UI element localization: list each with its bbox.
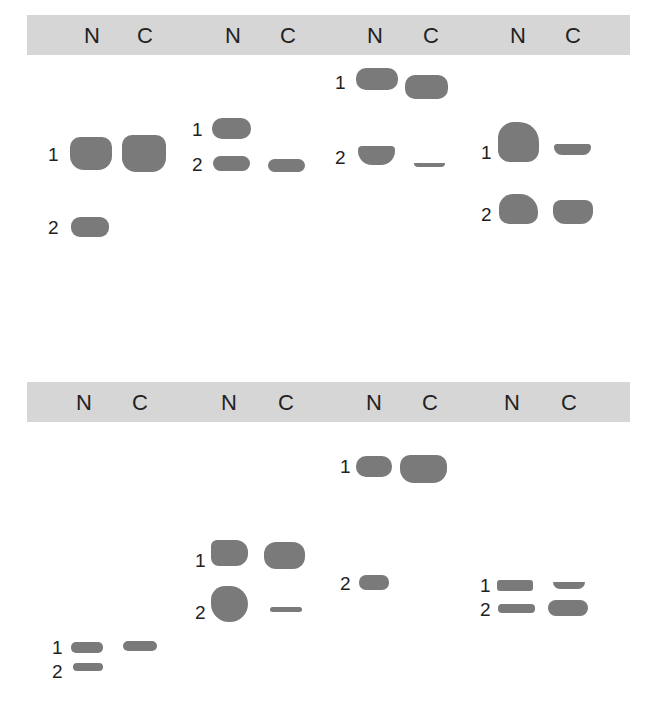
lane-label: C [423, 25, 439, 47]
gel-band [553, 582, 585, 589]
lane-label: C [422, 392, 438, 414]
lane-label: C [278, 392, 294, 414]
top-lane-header [27, 15, 630, 55]
lane-label: N [84, 25, 100, 47]
gel-band [497, 580, 533, 591]
lane-label: N [366, 392, 382, 414]
gel-band [70, 137, 112, 170]
band-number-label: 2 [335, 148, 346, 167]
lane-label: C [132, 392, 148, 414]
band-number-label: 2 [52, 662, 63, 681]
band-number-label: 2 [481, 205, 492, 224]
band-number-label: 1 [480, 576, 491, 595]
bottom-lane-header [27, 382, 630, 422]
gel-band [71, 642, 103, 653]
gel-band [264, 542, 305, 569]
band-number-label: 1 [48, 145, 59, 164]
gel-band [498, 122, 539, 162]
gel-band [356, 456, 392, 477]
gel-band [548, 600, 588, 616]
gel-band [73, 663, 103, 671]
lane-label: C [137, 25, 153, 47]
band-number-label: 1 [340, 457, 351, 476]
lane-label: N [225, 25, 241, 47]
gel-band [268, 159, 305, 172]
lane-label: C [561, 392, 577, 414]
gel-band [499, 194, 538, 224]
gel-band [211, 540, 248, 566]
lane-label: N [367, 25, 383, 47]
gel-band [358, 146, 395, 165]
gel-band [71, 217, 109, 237]
lane-label: N [76, 392, 92, 414]
band-number-label: 2 [195, 603, 206, 622]
band-number-label: 2 [480, 600, 491, 619]
gel-band [414, 163, 445, 167]
gel-band [213, 156, 250, 171]
lane-label: N [221, 392, 237, 414]
gel-band [554, 144, 591, 155]
gel-band [212, 118, 251, 139]
band-number-label: 1 [192, 120, 203, 139]
gel-band [123, 641, 157, 651]
band-number-label: 1 [481, 143, 492, 162]
gel-band [356, 68, 398, 90]
lane-label: N [504, 392, 520, 414]
gel-band [211, 586, 248, 622]
gel-band [405, 75, 448, 99]
lane-label: C [565, 25, 581, 47]
gel-band [553, 200, 593, 224]
band-number-label: 2 [340, 574, 351, 593]
gel-band [400, 455, 447, 483]
gel-band [359, 575, 389, 590]
band-number-label: 2 [192, 155, 203, 174]
band-number-label: 1 [335, 73, 346, 92]
band-number-label: 1 [195, 551, 206, 570]
band-number-label: 1 [52, 638, 63, 657]
band-number-label: 2 [48, 218, 59, 237]
lane-label: N [510, 25, 526, 47]
gel-band [122, 135, 166, 172]
gel-band [498, 604, 535, 613]
lane-label: C [280, 25, 296, 47]
gel-band [270, 607, 302, 612]
